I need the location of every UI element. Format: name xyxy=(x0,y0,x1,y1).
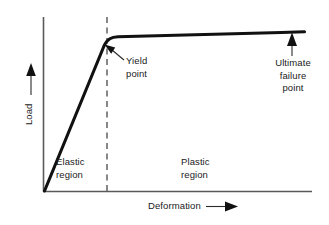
x-axis-arrow-icon xyxy=(225,202,238,212)
plastic-region-label: Plasticregion xyxy=(181,156,210,181)
yield-point-label: Yieldpoint xyxy=(126,55,147,80)
ultimate-failure-label-line-3: point xyxy=(282,82,303,93)
yield-point-label-line-1: Yield xyxy=(126,55,147,66)
chart-canvas xyxy=(0,0,329,225)
ultimate-failure-label-line-2: failure xyxy=(280,70,307,81)
elastic-region-label: Elasticregion xyxy=(56,156,85,181)
load-deformation-chart: Yieldpoint Ultimatefailurepoint Elasticr… xyxy=(0,0,329,225)
elastic-region-label-line-1: Elastic xyxy=(56,156,85,167)
elastic-region-label-line-2: region xyxy=(56,169,83,180)
yield-point-arrowhead xyxy=(105,45,116,54)
plastic-region-label-line-1: Plastic xyxy=(181,156,210,167)
y-axis-arrow-icon xyxy=(26,63,36,76)
ultimate-failure-point-label: Ultimatefailurepoint xyxy=(261,57,325,95)
yield-point-label-line-2: point xyxy=(126,68,147,79)
ultimate-failure-label-line-1: Ultimate xyxy=(275,57,311,68)
plastic-region-label-line-2: region xyxy=(181,169,208,180)
x-axis-title: Deformation xyxy=(148,200,201,213)
yield-point-leader-line xyxy=(112,50,124,60)
ultimate-failure-arrowhead xyxy=(287,33,297,47)
y-axis-title: Load xyxy=(23,84,36,144)
